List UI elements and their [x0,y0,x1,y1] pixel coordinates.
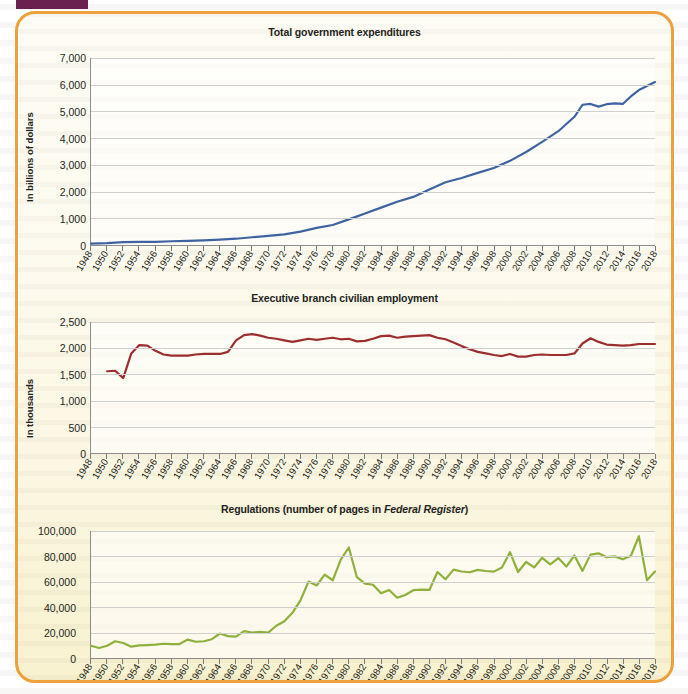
x-tick-label: 2010 [574,249,595,273]
x-tick [203,659,204,664]
x-tick-label: 1998 [477,457,498,481]
x-tick-label: 2006 [542,457,563,481]
x-tick [364,659,365,664]
x-tick-label: 2016 [622,457,643,481]
x-tick [171,454,172,459]
y-tick-label: 2,500 [60,316,86,328]
x-tick-label: 1990 [413,249,434,273]
x-tick [235,454,236,459]
x-tick [639,246,640,251]
x-tick [639,454,640,459]
x-tick [413,454,414,459]
chart-title-1: Executive branch civilian employment [18,292,671,304]
x-tick [187,454,188,459]
chart-title-2-italic: Federal Register [384,503,465,515]
gridline [91,633,655,634]
x-tick [90,246,91,251]
plot-area-2 [90,531,655,659]
x-tick [655,246,656,251]
x-tick-label: 1952 [106,457,127,481]
x-tick [364,246,365,251]
x-tick-label: 2012 [590,249,611,273]
x-tick [558,659,559,664]
x-tick [187,246,188,251]
data-line [107,334,655,378]
x-tick [106,659,107,664]
x-tick [138,246,139,251]
gridline [91,58,655,59]
x-tick [106,246,107,251]
x-tick-label: 1982 [348,249,369,273]
x-tick [558,454,559,459]
x-tick-label: 1976 [300,457,321,481]
x-tick-label: 2014 [606,457,627,481]
y-tick-label: 80,000 [44,551,76,563]
x-tick [607,454,608,459]
x-tick [348,659,349,664]
gridline [91,111,655,112]
figure-frame: Total government expenditures In billion… [15,11,674,683]
x-tick [122,659,123,664]
x-tick-label: 2008 [558,457,579,481]
y-tick-label: 1,000 [60,213,86,225]
x-tick-label: 1986 [380,457,401,481]
x-tick-label: 2002 [509,249,530,273]
x-tick [219,659,220,664]
x-tick-label: 1948 [74,249,95,273]
x-tick [445,659,446,664]
y-axis-label-1: In thousands [24,348,35,438]
x-tick [494,659,495,664]
x-tick-label: 1980 [332,249,353,273]
x-tick-label: 1990 [413,457,434,481]
x-tick-label: 1966 [219,457,240,481]
x-tick [623,246,624,251]
x-tick-label: 1988 [396,457,417,481]
x-tick-label: 2002 [509,457,530,481]
y-tick-label: 6,000 [60,79,86,91]
gridline [91,138,655,139]
x-tick-label: 2016 [622,249,643,273]
x-tick [574,659,575,664]
x-tick [413,246,414,251]
x-tick [397,454,398,459]
x-tick [461,659,462,664]
x-tick-label: 2006 [542,249,563,273]
x-tick-label: 1988 [396,249,417,273]
y-axis-ticks-0: 7,0006,0005,0004,0003,0002,0001,0000 [36,58,90,246]
x-tick [364,454,365,459]
x-tick-label: 1972 [267,249,288,273]
x-axis-labels-2: 1948195019521954195619581960196219641966… [90,665,655,683]
x-tick-label: 1978 [316,249,337,273]
x-tick-label: 1986 [380,249,401,273]
x-tick-label: 1992 [429,249,450,273]
x-tick [316,454,317,459]
x-tick [429,659,430,664]
x-tick-label: 1984 [364,457,385,481]
x-tick [542,246,543,251]
x-tick [268,454,269,459]
x-tick [381,454,382,459]
x-tick [300,246,301,251]
line-series-1 [91,322,655,453]
x-tick [316,659,317,664]
x-tick [607,246,608,251]
x-tick [171,246,172,251]
x-tick [332,454,333,459]
chapter-tab-marker [16,0,88,9]
x-tick [332,659,333,664]
y-axis-ticks-1: 2,5002,0001,5001,0005000 [36,322,90,454]
x-tick [639,659,640,664]
x-tick [542,659,543,664]
gridline [91,165,655,166]
x-tick [219,246,220,251]
chart-title-2-lead: Regulations (number of pages in [221,503,384,515]
x-tick [590,659,591,664]
gridline [91,401,655,402]
line-series-2 [91,531,655,658]
x-tick [477,659,478,664]
gridline [91,348,655,349]
x-tick [494,246,495,251]
x-tick [526,454,527,459]
x-tick-label: 2000 [493,457,514,481]
x-axis-labels-0: 1948195019521954195619581960196219641966… [90,252,655,296]
